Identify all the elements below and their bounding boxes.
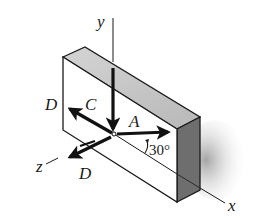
force-label-a: A bbox=[128, 112, 140, 131]
block-force-diagram: y x z D C A D 30° bbox=[0, 0, 254, 221]
force-label-b: C bbox=[85, 95, 97, 114]
force-a bbox=[117, 132, 168, 134]
x-axis-label: x bbox=[227, 196, 236, 215]
force-label-d: D bbox=[78, 164, 92, 183]
y-axis-label: y bbox=[95, 12, 105, 31]
force-label-c: D bbox=[44, 95, 58, 114]
angle-label: 30° bbox=[149, 142, 170, 158]
z-axis bbox=[46, 158, 58, 164]
block-side-face bbox=[177, 117, 200, 202]
z-axis-label: z bbox=[35, 157, 43, 176]
origin-point bbox=[112, 132, 116, 136]
